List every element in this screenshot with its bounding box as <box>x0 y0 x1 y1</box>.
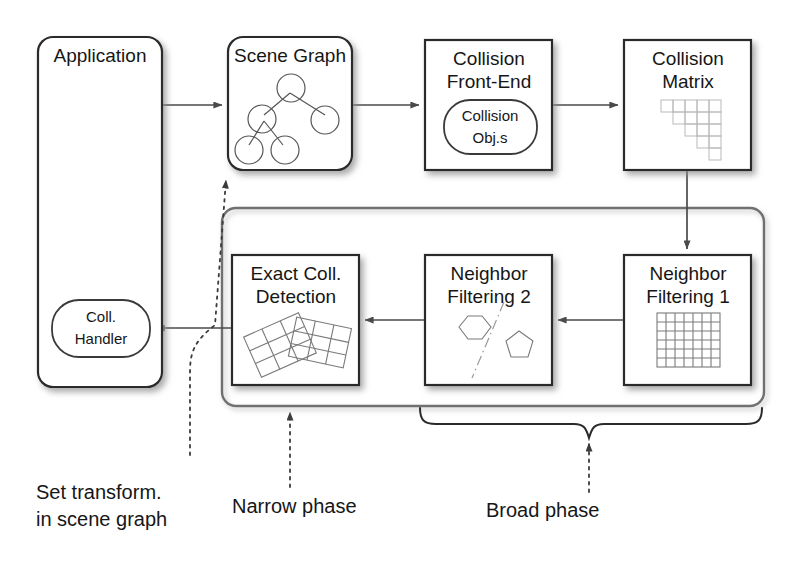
caption-narrow-phase: Narrow phase <box>232 495 357 517</box>
caption-set-transform: Set transform. in scene graph <box>36 481 167 530</box>
exact-coll-detection-label-line2: Detection <box>256 286 336 307</box>
collision-front-end-label-line1: Collision <box>453 48 525 69</box>
collision-front-end-label-line2: Front-End <box>447 71 531 92</box>
node-collision-objs[interactable]: Collision Obj.s <box>444 100 537 154</box>
brace-broad-phase <box>420 408 762 438</box>
node-coll-handler[interactable]: Coll. Handler <box>52 300 150 357</box>
exact-coll-detection-label-line1: Exact Coll. <box>251 263 342 284</box>
node-collision-front-end[interactable]: Collision Front-End Collision Obj.s <box>425 40 552 170</box>
neighbor-filtering-2-label-line1: Neighbor <box>450 263 528 284</box>
application-label: Application <box>54 45 147 66</box>
neighbor-filtering-1-label-line1: Neighbor <box>649 263 727 284</box>
node-neighbor-filtering-2[interactable]: Neighbor Filtering 2 <box>425 255 552 385</box>
collision-pipeline-diagram: Application Coll. Handler Scene Graph <box>0 0 789 563</box>
collision-objs-label-line1: Collision <box>462 107 519 124</box>
coll-handler-label-line2: Handler <box>75 330 128 347</box>
collision-matrix-label-line1: Collision <box>652 48 724 69</box>
node-collision-matrix[interactable]: Collision Matrix <box>624 40 751 170</box>
node-exact-coll-detection[interactable]: Exact Coll. Detection <box>232 255 359 385</box>
coll-handler-label-line1: Coll. <box>86 308 116 325</box>
node-neighbor-filtering-1[interactable]: Neighbor Filtering 1 <box>624 255 751 385</box>
collision-objs-label-line2: Obj.s <box>472 129 507 146</box>
caption-broad-phase: Broad phase <box>486 499 599 521</box>
collision-matrix-label-line2: Matrix <box>662 71 714 92</box>
neighbor-filtering-2-label-line2: Filtering 2 <box>447 286 530 307</box>
set-transform-line2: in scene graph <box>36 508 167 530</box>
connection-set-transform-dotted <box>190 180 226 455</box>
narrow-phase-label: Narrow phase <box>232 495 357 517</box>
scene-graph-label: Scene Graph <box>234 45 346 66</box>
set-transform-line1: Set transform. <box>36 481 162 503</box>
diagram-canvas: Application Coll. Handler Scene Graph <box>0 0 789 563</box>
broad-phase-label: Broad phase <box>486 499 599 521</box>
node-scene-graph[interactable]: Scene Graph <box>228 37 352 170</box>
neighbor-filtering-1-label-line2: Filtering 1 <box>646 286 729 307</box>
